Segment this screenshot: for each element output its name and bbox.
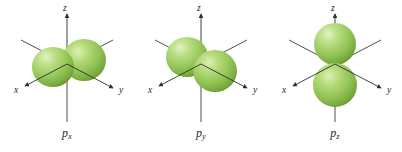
axis-label-x-py: x [147, 85, 153, 95]
orbital-panel-pz: x y z pz [268, 0, 402, 152]
orbital-diagram-pz: x y z [268, 0, 402, 128]
orbital-lobes-px [32, 39, 106, 87]
orbital-caption-sub-py: y [202, 131, 206, 141]
p-orbitals-figure: x y z px [0, 0, 402, 152]
axis-label-y-py: y [252, 85, 258, 95]
orbital-caption-pz: pz [268, 126, 402, 141]
orbital-caption-py: py [134, 126, 268, 141]
orbital-caption-sub-pz: z [336, 131, 340, 141]
orbital-diagram-px: x y z [0, 0, 134, 128]
orbital-panel-px: x y z px [0, 0, 134, 152]
orbital-panel-py: x y z py [134, 0, 268, 152]
axis-label-x-px: x [13, 85, 19, 95]
axis-label-x-pz: x [281, 85, 287, 95]
orbital-lobes-pz [313, 23, 357, 107]
axis-label-z-pz: z [330, 3, 335, 13]
orbital-caption-px: px [0, 126, 134, 141]
axis-label-y-px: y [118, 85, 124, 95]
orbital-caption-sub-px: x [68, 131, 72, 141]
axis-label-y-pz: y [386, 85, 392, 95]
axis-label-z-py: z [196, 3, 201, 13]
orbital-diagram-py: x y z [134, 0, 268, 128]
axis-label-z-px: z [62, 3, 67, 13]
